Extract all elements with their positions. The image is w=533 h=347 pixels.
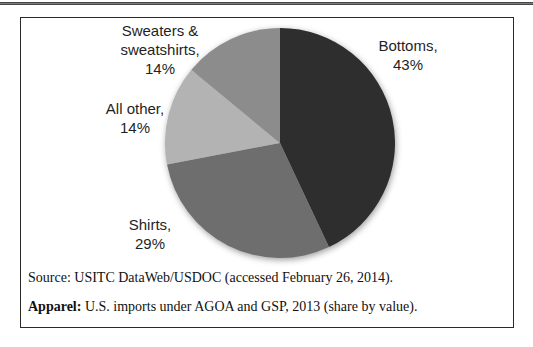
figure-caption-label: Apparel: xyxy=(28,299,81,314)
top-rule-divider xyxy=(0,2,533,5)
pie-label-all-other: All other, 14% xyxy=(75,99,195,137)
pie-label-shirts: Shirts, 29% xyxy=(90,215,210,253)
figure-caption-text: U.S. imports under AGOA and GSP, 2013 (s… xyxy=(81,299,417,314)
pie-label-bottoms: Bottoms, 43% xyxy=(348,36,468,74)
figure-page: Sweaters & sweatshirts, 14% Bottoms, 43%… xyxy=(0,0,533,347)
figure-box: Sweaters & sweatshirts, 14% Bottoms, 43%… xyxy=(20,17,514,328)
source-note: Source: USITC DataWeb/USDOC (accessed Fe… xyxy=(28,270,393,286)
figure-caption: Apparel: U.S. imports under AGOA and GSP… xyxy=(28,299,417,315)
pie-label-sweaters: Sweaters & sweatshirts, 14% xyxy=(85,21,235,78)
